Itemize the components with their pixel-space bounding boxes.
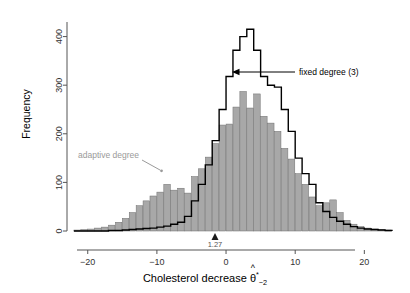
y-tick-label: 300 [54, 78, 64, 93]
histogram-bar [288, 159, 295, 231]
y-tick-label: 0 [54, 228, 64, 233]
histogram-bar [261, 116, 268, 231]
histogram-bar [330, 200, 337, 231]
histogram-bar [351, 224, 358, 231]
theta-subscript: −2 [259, 278, 267, 287]
histogram-bar [233, 107, 240, 231]
histogram-bar [129, 213, 136, 231]
histogram-bar [212, 144, 219, 231]
point-estimate-label: 1.27 [208, 240, 223, 249]
histogram-bar [344, 220, 351, 231]
histogram-bar [323, 203, 330, 231]
histogram-bar [115, 222, 122, 231]
point-estimate-marker: 1.27 [208, 233, 223, 249]
histogram-bar [254, 94, 261, 231]
adaptive-degree-bars [74, 92, 392, 232]
figure-panel: 0100200300400−20−1001020 1.27 fixed degr… [0, 0, 410, 293]
adaptive-degree-annotation: adaptive degree [78, 150, 163, 172]
histogram-bar [164, 184, 171, 231]
histogram-bar [274, 131, 281, 231]
histogram-bar [122, 218, 129, 231]
fixed-degree-label: fixed degree (3) [299, 67, 359, 77]
histogram-bar [136, 206, 143, 231]
histogram-bar [316, 206, 323, 231]
y-tick-label: 400 [54, 29, 64, 44]
histogram-bar [268, 123, 275, 231]
histogram-bar [191, 177, 198, 231]
y-tick-label: 200 [54, 126, 64, 141]
histogram-bar [198, 169, 205, 231]
x-axis-title: Cholesterol decrease ^θ*−2 [0, 270, 410, 287]
y-axis-title: Frequency [20, 72, 32, 156]
histogram-bar [240, 92, 247, 232]
histogram-bar [150, 196, 157, 231]
x-tick-label: −10 [149, 257, 164, 267]
histogram-bar [178, 188, 185, 231]
x-tick-label: −20 [80, 257, 95, 267]
x-tick-label: 10 [290, 257, 300, 267]
fixed-degree-annotation: fixed degree (3) [232, 67, 359, 77]
histogram-bar [357, 227, 364, 231]
histogram-bar [219, 125, 226, 231]
histogram-bar [226, 124, 233, 231]
theta-glyph: θ [250, 272, 256, 284]
histogram-bar [295, 174, 302, 231]
adaptive-degree-label: adaptive degree [78, 150, 139, 160]
histogram-bar [281, 148, 288, 231]
histogram-bar [309, 197, 316, 231]
histogram-bar [302, 184, 309, 231]
y-tick-label: 100 [54, 175, 64, 190]
x-tick-label: 20 [359, 257, 369, 267]
x-axis-title-prefix: Cholesterol decrease [143, 272, 250, 284]
x-tick-label: 0 [224, 257, 229, 267]
histogram-bar [157, 192, 164, 231]
histogram-plot: 0100200300400−20−1001020 1.27 fixed degr… [0, 0, 410, 293]
histogram-bar [185, 193, 192, 231]
histogram-bar [247, 108, 254, 231]
theta-symbol-group: ^θ [250, 272, 256, 284]
histogram-bar [205, 157, 212, 231]
histogram-bar [143, 201, 150, 231]
theta-hat-icon: ^ [250, 264, 256, 273]
